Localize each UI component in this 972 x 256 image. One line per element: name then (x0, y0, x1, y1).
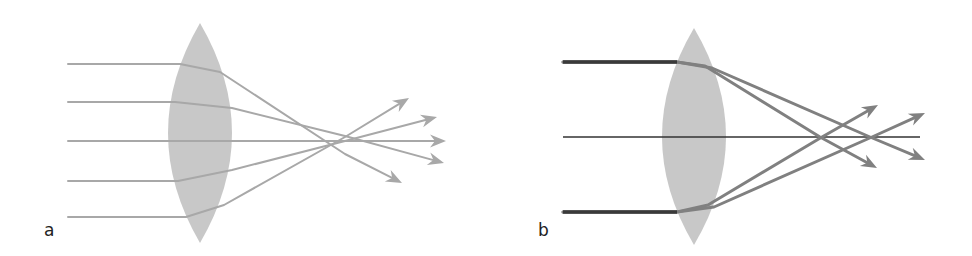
arrow-head-icon-4 (392, 98, 409, 112)
panel-label-b: b (538, 220, 549, 240)
light-ray-3 (68, 120, 427, 181)
light-ray-4 (68, 103, 400, 217)
panel-b: b (486, 0, 972, 256)
light-ray-3 (563, 117, 916, 212)
spherical-aberration-diagram (0, 0, 486, 256)
panel-label-a: a (44, 220, 54, 240)
panel-a: a (0, 0, 486, 256)
chromatic-aberration-diagram (486, 0, 972, 256)
convex-lens (168, 23, 232, 243)
